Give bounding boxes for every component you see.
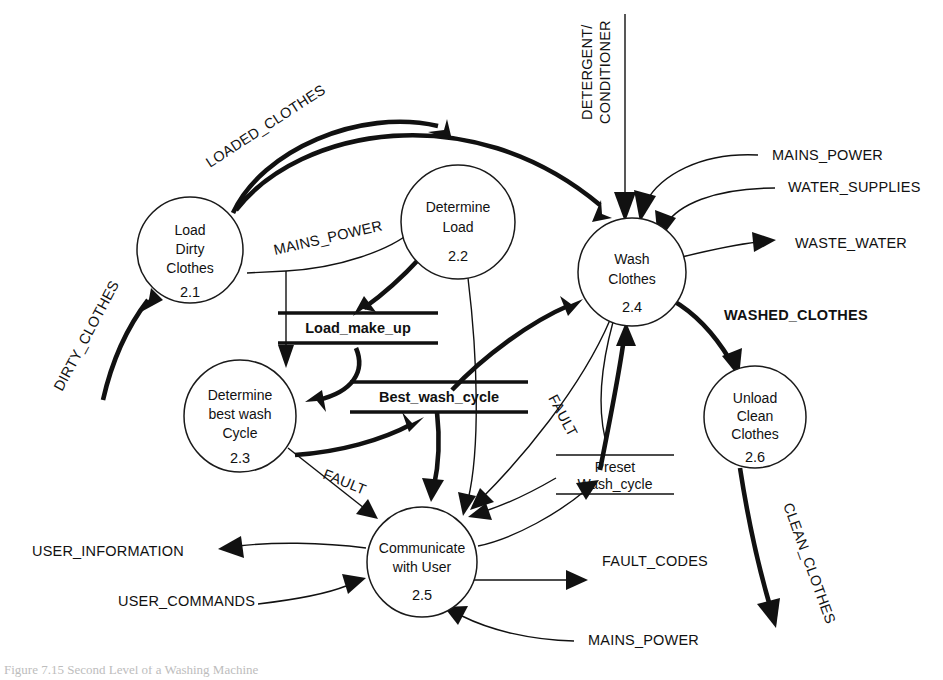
data-store-load-make-up[interactable]: Load_make_up [278,313,438,343]
process-label-line: Unload [733,390,777,406]
process-number: 2.6 [745,449,765,465]
process-2-3[interactable]: Determine best wash Cycle 2.3 [184,360,296,472]
flow-label-user-commands: USER_COMMANDS [118,593,255,609]
diagram-canvas: Load_make_up Best_wash_cycle Preset Wash… [0,0,943,680]
figure-caption: Figure 7.15 Second Level of a Washing Ma… [4,666,258,678]
flow-label-text: WASHED_CLOTHES [724,307,868,323]
flow-load-make-up-to-determine-cycle [305,348,359,412]
process-number: 2.4 [622,299,642,315]
flow-label-text: MAINS_POWER [588,632,699,648]
flow-label-fault-codes: FAULT_CODES [602,553,708,569]
process-label-line: Load [174,222,205,238]
flow-label-user-information: USER_INFORMATION [32,543,184,559]
process-2-6[interactable]: Unload Clean Clothes 2.6 [704,366,806,468]
flow-label-mains-power-wash: MAINS_POWER [772,147,883,163]
data-store-label-line1: Preset [595,459,636,475]
flow-label-water-supplies: WATER_SUPPLIES [788,179,921,195]
flow-label-waste-water: WASTE_WATER [795,235,907,251]
process-label-line: Dirty [176,241,205,257]
flow-label-mains-power-user: MAINS_POWER [588,632,699,648]
flow-label-text: FAULT [545,392,580,439]
flow-communicate-to-wash [600,322,636,470]
flow-user-information [218,536,366,558]
flow-waste-water [678,232,776,258]
process-label-line: Load [442,219,473,235]
flow-dirty-clothes [103,288,163,400]
flow-user-commands [258,574,366,604]
flow-label-mains-power-load: MAINS_POWER [272,217,384,258]
process-label-line: Determine [426,199,491,215]
flow-detergent-conditioner [614,14,636,222]
flow-label-text: WASTE_WATER [795,235,907,251]
flow-mains-power-to-communicate [444,606,574,641]
process-number: 2.2 [448,248,468,264]
process-label-line: Clothes [731,426,778,442]
process-label-line: Cycle [222,425,257,441]
process-label-line: Clean [737,408,774,424]
flow-label-text: WATER_SUPPLIES [788,179,921,195]
data-store-label-line2: Wash_cycle [578,476,653,492]
flow-label-text: MAINS_POWER [772,147,883,163]
process-label-line: with User [392,559,452,575]
flow-label-text: DETERGENT/ [579,24,595,120]
process-label-line: Determine [208,387,273,403]
flow-best-wash-cycle-to-communicate [422,412,444,502]
flow-label-text: USER_INFORMATION [32,543,184,559]
process-label-line: Clothes [608,271,655,287]
process-label-line: Communicate [379,540,466,556]
process-label-line: best wash [208,406,271,422]
flow-label-text: USER_COMMANDS [118,593,255,609]
process-2-2[interactable]: Determine Load 2.2 [401,165,515,279]
data-store-label: Best_wash_cycle [379,389,499,405]
data-store-best-wash-cycle[interactable]: Best_wash_cycle [350,382,528,412]
process-label-line: Wash [614,251,649,267]
flow-mains-power-to-wash [634,155,758,222]
process-2-5[interactable]: Communicate with User 2.5 [367,507,477,617]
flow-label-washed-clothes: WASHED_CLOTHES [724,307,868,323]
dfd-svg: Load_make_up Best_wash_cycle Preset Wash… [0,0,943,680]
flow-fault-codes [470,570,588,590]
process-number: 2.1 [180,284,200,300]
flow-label-detergent-line1: DETERGENT/ [579,24,595,120]
process-2-4[interactable]: Wash Clothes 2.4 [578,218,686,326]
flow-label-text: CONDITIONER [597,20,613,124]
flow-label-detergent-line2: CONDITIONER [597,20,613,124]
process-number: 2.3 [230,450,250,466]
flow-label-text: CLEAN_CLOTHES [780,501,839,626]
process-label-line: Clothes [166,260,213,276]
data-store-preset-wash-cycle[interactable]: Preset Wash_cycle [556,455,674,494]
figure-caption-strip: Figure 7.15 Second Level of a Washing Ma… [0,666,943,680]
flow-determine-cycle-to-best-wash-cycle [295,412,424,455]
flow-clean-clothes [740,468,780,628]
process-2-1[interactable]: Load Dirty Clothes 2.1 [137,197,243,303]
flow-mains-power-to-best-cycle [278,271,294,368]
process-number: 2.5 [412,587,432,603]
flow-label-text: MAINS_POWER [272,217,384,258]
data-store-label: Load_make_up [305,320,411,336]
flow-determine-load-to-load-make-up [353,258,420,316]
flow-label-clean-clothes: CLEAN_CLOTHES [780,501,839,626]
flow-label-text: FAULT_CODES [602,553,708,569]
flow-label-fault-wash: FAULT [545,392,580,439]
